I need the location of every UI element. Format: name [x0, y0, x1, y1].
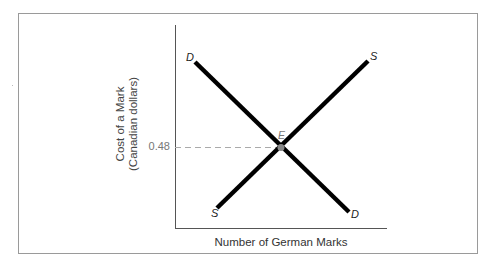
price-tick-label: 0.48 [140, 140, 170, 152]
supply-label-bottom: S [211, 207, 218, 219]
demand-curve [195, 62, 349, 212]
y-axis-title-line2: (Canadian dollars) [127, 77, 140, 171]
x-axis-title: Number of German Marks [175, 236, 387, 248]
equilibrium-point [278, 144, 285, 151]
equilibrium-label: E [278, 129, 285, 141]
supply-label-top: S [370, 50, 377, 62]
supply-curve [217, 61, 368, 208]
demand-label-top: D [186, 51, 194, 63]
demand-label-bottom: D [351, 208, 359, 220]
supply-demand-chart [0, 0, 493, 270]
y-axis-title-line1: Cost of a Mark [114, 77, 127, 171]
